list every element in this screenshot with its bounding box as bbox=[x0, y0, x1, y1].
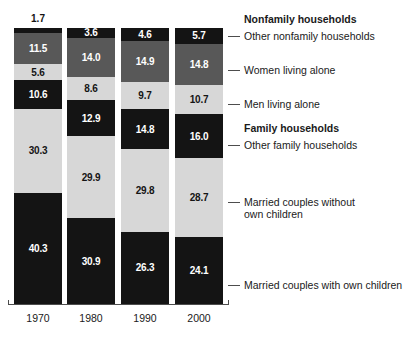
legend-leader-line bbox=[228, 70, 240, 71]
legend-leader-line bbox=[228, 36, 240, 37]
legend-item-label[interactable]: Women living alone bbox=[244, 65, 335, 77]
legend-leader-line bbox=[228, 145, 240, 146]
legend-leader-line bbox=[228, 285, 240, 286]
chart-legend: Nonfamily householdsOther nonfamily hous… bbox=[0, 0, 406, 342]
legend-leader-line bbox=[228, 104, 240, 105]
stacked-bar-chart: 1.711.55.610.630.340.33.614.08.612.929.9… bbox=[0, 0, 406, 342]
legend-item-label[interactable]: Men living alone bbox=[244, 99, 320, 111]
legend-item-label[interactable]: Other family households bbox=[244, 140, 357, 152]
legend-leader-line bbox=[228, 202, 240, 203]
legend-item-label[interactable]: Married couples with own children bbox=[244, 280, 402, 292]
legend-item-label[interactable]: Family households bbox=[244, 123, 339, 135]
legend-item-label[interactable]: Married couples without own children bbox=[244, 197, 355, 220]
legend-item-label[interactable]: Other nonfamily households bbox=[244, 31, 375, 43]
legend-item-label[interactable]: Nonfamily households bbox=[244, 14, 357, 26]
